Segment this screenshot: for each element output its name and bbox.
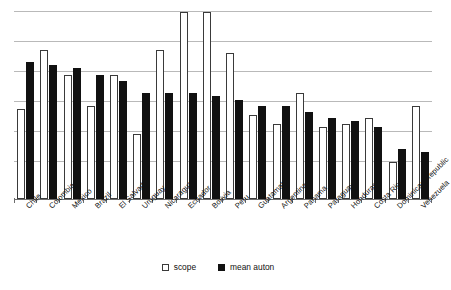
legend-label-mean-auton: mean auton (230, 262, 274, 272)
bar-mean-auton (258, 106, 266, 199)
bar-scope (110, 75, 118, 199)
bar-scope (40, 50, 48, 199)
bar-group (362, 0, 385, 199)
bar-group (246, 0, 269, 199)
bar-group (339, 0, 362, 199)
bar-scope (203, 12, 211, 199)
bar-group (269, 0, 292, 199)
bar-group (60, 0, 83, 199)
bar-group (37, 0, 60, 199)
bar-mean-auton (165, 93, 173, 199)
legend-swatch-mean-auton-icon (218, 264, 225, 271)
bar-group (130, 0, 153, 199)
x-axis-labels: ChileColombiaMexicoBrazilEl SalvadorUrug… (14, 200, 432, 260)
bar-group (177, 0, 200, 199)
bar-mean-auton (96, 75, 104, 199)
bar-mean-auton (398, 149, 406, 199)
bar-mean-auton (235, 100, 243, 200)
bar-mean-auton (328, 118, 336, 199)
bar-group (200, 0, 223, 199)
bar-group (316, 0, 339, 199)
bar-group (223, 0, 246, 199)
bar-mean-auton (73, 68, 81, 199)
legend-swatch-scope-icon (162, 264, 169, 271)
bar-group (107, 0, 130, 199)
bar-group (293, 0, 316, 199)
bar-mean-auton (49, 65, 57, 199)
bar-mean-auton (212, 96, 220, 199)
plot-area (14, 0, 432, 200)
bar-mean-auton (119, 81, 127, 199)
bar-group (386, 0, 409, 199)
bar-scope (156, 50, 164, 199)
bars-layer (14, 0, 432, 199)
bar-scope (249, 115, 257, 199)
chart-legend: scope mean auton (0, 262, 436, 272)
bar-group (14, 0, 37, 199)
bar-scope (87, 106, 95, 199)
legend-item-scope: scope (162, 262, 196, 272)
bar-group (153, 0, 176, 199)
legend-item-mean-auton: mean auton (218, 262, 274, 272)
bar-scope (180, 12, 188, 199)
bar-scope (17, 109, 25, 199)
bar-group (84, 0, 107, 199)
legend-label-scope: scope (174, 262, 196, 272)
bar-mean-auton (26, 62, 34, 199)
bar-scope (226, 53, 234, 199)
